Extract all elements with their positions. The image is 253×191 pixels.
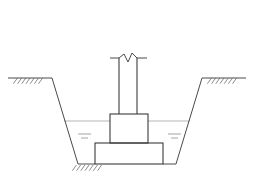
spread-footing [95,143,163,164]
foundation-cross-section-drawing [0,0,253,191]
drawing-svg-root [0,0,253,191]
ground-hatch-left [13,78,42,84]
ground-hatch-right [207,78,236,84]
break-line-zigzag-icon [119,53,137,62]
footing-pedestal [110,114,148,143]
excavation-bottom-hatch [72,165,101,171]
